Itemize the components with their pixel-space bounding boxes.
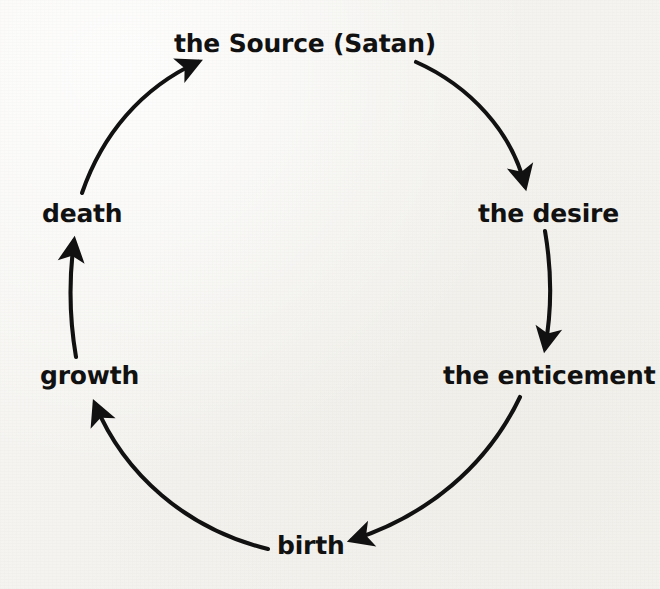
cycle-diagram: the Source (Satan) the desire the entice…: [0, 0, 660, 589]
arc-death-to-source: [82, 62, 198, 193]
arc-desire-to-enticement: [545, 231, 550, 348]
node-label-source: the Source (Satan): [174, 29, 436, 59]
node-label-birth: birth: [277, 531, 345, 561]
arc-growth-to-death: [70, 241, 76, 357]
node-label-desire: the desire: [478, 199, 619, 229]
arc-source-to-desire: [416, 62, 525, 186]
node-label-death: death: [42, 199, 122, 229]
arc-birth-to-growth: [95, 404, 268, 549]
node-label-enticement: the enticement: [443, 361, 655, 391]
cycle-arcs-svg: [0, 0, 660, 589]
arc-enticement-to-birth: [352, 397, 520, 540]
node-label-growth: growth: [40, 361, 139, 391]
